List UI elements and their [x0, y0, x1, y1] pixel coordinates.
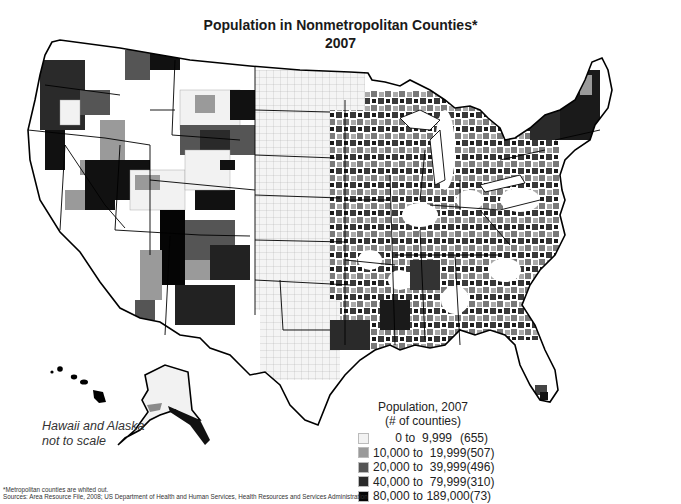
- legend-item: 20,000 to 39,999 (496): [358, 460, 488, 475]
- legend-range: 10,000 to 19,999: [373, 446, 466, 460]
- legend-item: 10,000 to 19,999 (507): [358, 446, 488, 461]
- legend: Population, 2007 (# of counties) 0 to 9,…: [358, 400, 488, 504]
- legend-range: 80,000 to 189,000: [373, 489, 470, 503]
- legend-swatch: [358, 476, 369, 487]
- contiguous-us: [28, 40, 612, 425]
- legend-title: Population, 2007: [358, 400, 488, 414]
- legend-count: (655): [452, 431, 488, 445]
- legend-item: 0 to 9,999 (655): [358, 431, 488, 446]
- legend-count: (310): [466, 475, 494, 489]
- legend-subtitle: (# of counties): [358, 414, 488, 428]
- footnote-metro: *Metropolitan counties are whited out.: [3, 486, 108, 493]
- legend-swatch: [358, 433, 369, 444]
- map-year: 2007: [0, 35, 681, 51]
- legend-count: (507): [466, 446, 494, 460]
- legend-count: (496): [466, 460, 494, 474]
- scale-note-line2: not to scale: [42, 434, 144, 449]
- legend-range: 0 to 9,999: [373, 431, 452, 445]
- legend-swatch: [358, 447, 369, 458]
- footnote-sources: Sources: Area Resource File, 2008; US De…: [3, 493, 368, 500]
- scale-note: Hawaii and Alaska not to scale: [42, 419, 144, 449]
- legend-count: (73): [470, 489, 491, 503]
- hawaii: [50, 366, 106, 403]
- legend-swatch: [358, 462, 369, 473]
- map-title: Population in Nonmetropolitan Counties*: [0, 17, 681, 33]
- legend-range: 20,000 to 39,999: [373, 460, 466, 474]
- legend-range: 40,000 to 79,999: [373, 475, 466, 489]
- scale-note-line1: Hawaii and Alaska: [42, 419, 144, 434]
- legend-item: 40,000 to 79,999 (310): [358, 475, 488, 490]
- legend-item: 80,000 to 189,000 (73): [358, 489, 488, 504]
